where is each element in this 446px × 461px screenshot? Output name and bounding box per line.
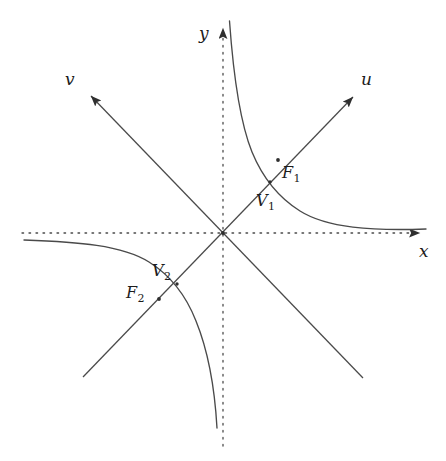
origin-point bbox=[221, 231, 225, 235]
x-axis-label: x bbox=[419, 241, 429, 261]
vertex-v2-label: V2 bbox=[152, 261, 171, 283]
vertex-v1-label: V1 bbox=[256, 191, 275, 213]
focus-f2-marker bbox=[157, 297, 161, 301]
focus-f2-label: F2 bbox=[125, 283, 145, 305]
u-axis-label: u bbox=[361, 69, 372, 89]
vertex-v2-marker bbox=[175, 282, 178, 285]
hyperbola-figure: x y u v V1 F1 bbox=[0, 0, 446, 461]
focus-f1-marker bbox=[276, 158, 280, 162]
y-axis-label: y bbox=[198, 23, 209, 43]
vertex-v1-marker bbox=[268, 180, 271, 183]
v-axis-label: v bbox=[65, 69, 75, 89]
vertex-v1: V1 bbox=[256, 180, 275, 213]
y-axis: y bbox=[198, 23, 223, 446]
focus-f1-label: F1 bbox=[281, 163, 301, 185]
v-axis: v bbox=[65, 69, 363, 378]
u-axis-line bbox=[83, 97, 353, 377]
x-axis: x bbox=[22, 233, 429, 261]
focus-f1: F1 bbox=[276, 158, 301, 185]
v-axis-line bbox=[91, 96, 363, 378]
